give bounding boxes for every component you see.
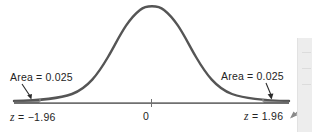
z-positive-value: = 1.96 [249,110,284,122]
right-callout-arrow-line [266,83,271,95]
page-edge-artifact [297,38,312,132]
left-callout-arrow-line [22,84,30,96]
zero-tick-label: 0 [143,110,149,122]
edge-line-3 [302,84,311,85]
left-callout-arrow-head [27,94,32,99]
edge-line-1 [302,52,311,53]
z-positive-tick-label: z = 1.96 [244,110,283,122]
left-area-label: Area = 0.025 [10,71,73,83]
right-callout-arrow-head [268,93,274,99]
z-negative-value: = −1.96 [15,111,56,123]
normal-distribution-figure: Area = 0.025 Area = 0.025 z = −1.96 0 z … [0,0,312,132]
z-negative-tick-label: z = −1.96 [10,111,56,123]
edge-line-2 [302,68,311,69]
normal-curve [14,6,289,101]
right-area-label: Area = 0.025 [221,70,284,82]
